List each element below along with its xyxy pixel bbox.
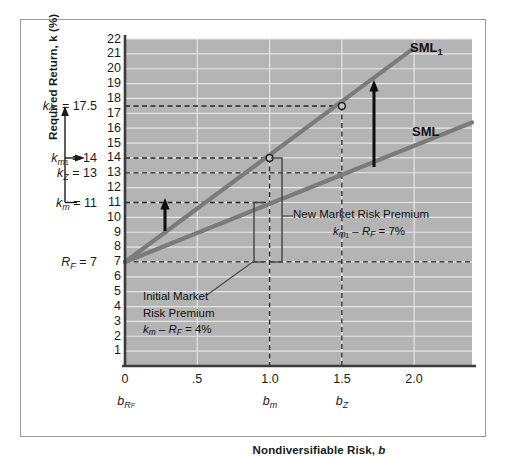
figure-root: 22 21 20 19 18 17 16 15 14 13 12 11 10 9… [0, 0, 507, 457]
figure-frame: 22 21 20 19 18 17 16 15 14 13 12 11 10 9… [20, 19, 486, 437]
left-label-connector [61, 106, 85, 203]
security-market-line-chart [21, 20, 485, 436]
point-kz1-marker [339, 103, 346, 110]
y-axis-title: Required Return, k (%) [47, 0, 59, 140]
x-axis-title: Nondiversifiable Risk, b [145, 444, 493, 456]
